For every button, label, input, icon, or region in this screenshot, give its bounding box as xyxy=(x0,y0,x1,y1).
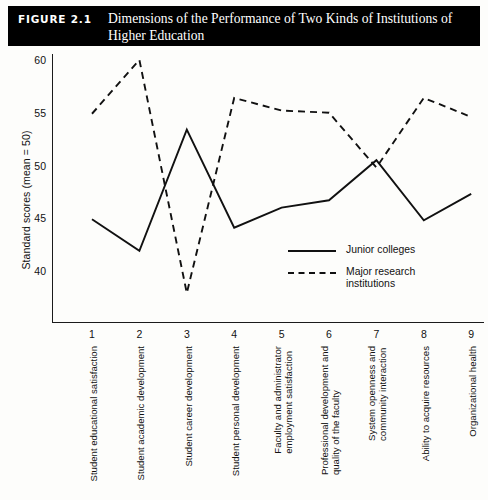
legend-item-major-research-institutions: Major research institutions xyxy=(288,266,458,291)
x-axis-category-7: System openness andcommunity interaction xyxy=(366,346,388,441)
x-axis-category-5: Faculty and administratoremployment sati… xyxy=(272,346,294,454)
x-axis-category-8: Ability to acquire resources xyxy=(420,346,431,461)
x-axis-category-1: Student educational satisfaction xyxy=(88,346,99,481)
figure-number-label: FIGURE 2.1 xyxy=(18,10,104,25)
legend-solid-line-icon xyxy=(288,244,338,256)
chart-plot-area: Standard scores (mean = 50) 4045505560 1… xyxy=(0,46,488,500)
legend-label-line-1: Major research xyxy=(346,266,415,277)
legend-item-junior-colleges: Junior colleges xyxy=(288,244,458,257)
series-line-junior-colleges xyxy=(92,130,471,251)
figure-header-banner: FIGURE 2.1 Dimensions of the Performance… xyxy=(8,6,480,46)
x-axis-category-2: Student academic development xyxy=(135,346,146,480)
x-axis-category-9: Organizational health xyxy=(467,346,478,437)
figure-container: FIGURE 2.1 Dimensions of the Performance… xyxy=(0,0,488,500)
legend-label-major-research-institutions: Major research institutions xyxy=(346,266,458,291)
x-axis-category-6: Professional development andquality of t… xyxy=(319,346,341,475)
legend-label-line-2: institutions xyxy=(346,278,395,289)
legend-dashed-line-icon xyxy=(288,266,338,278)
chart-series-lines xyxy=(0,46,488,346)
figure-title: Dimensions of the Performance of Two Kin… xyxy=(104,10,474,45)
x-axis-category-4: Student personal development xyxy=(230,346,241,476)
chart-legend: Junior colleges Major research instituti… xyxy=(288,244,458,300)
x-axis-category-3: Student career development xyxy=(183,346,194,467)
legend-label-junior-colleges: Junior colleges xyxy=(346,244,415,257)
